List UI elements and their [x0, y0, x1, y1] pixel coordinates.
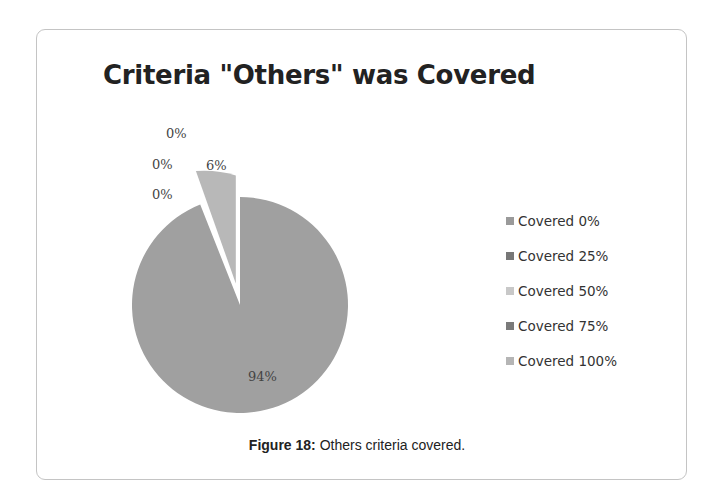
chart-legend: Covered 0% Covered 25% Covered 50% Cover… — [506, 203, 617, 378]
legend-item-covered-100: Covered 100% — [506, 343, 617, 378]
legend-swatch-icon — [506, 217, 514, 225]
legend-label: Covered 75% — [518, 318, 608, 334]
legend-label: Covered 25% — [518, 248, 608, 264]
legend-item-covered-25: Covered 25% — [506, 238, 617, 273]
figure-caption-label: Figure 18: — [249, 437, 316, 453]
legend-swatch-icon — [506, 287, 514, 295]
legend-swatch-icon — [506, 252, 514, 260]
legend-label: Covered 100% — [518, 353, 617, 369]
data-label-covered-75: 0% — [152, 187, 173, 202]
legend-swatch-icon — [506, 357, 514, 365]
legend-swatch-icon — [506, 322, 514, 330]
figure-caption: Figure 18: Others criteria covered. — [0, 437, 714, 453]
data-label-covered-25: 0% — [166, 126, 187, 141]
data-label-covered-100: 6% — [206, 158, 227, 173]
figure-caption-text: Others criteria covered. — [316, 437, 465, 453]
legend-item-covered-0: Covered 0% — [506, 203, 617, 238]
data-label-covered-50: 0% — [152, 157, 173, 172]
pie-slice-covered-0 — [132, 197, 348, 413]
data-label-covered-0: 94% — [248, 369, 277, 384]
legend-label: Covered 50% — [518, 283, 608, 299]
legend-label: Covered 0% — [518, 213, 600, 229]
legend-item-covered-75: Covered 75% — [506, 308, 617, 343]
legend-item-covered-50: Covered 50% — [506, 273, 617, 308]
